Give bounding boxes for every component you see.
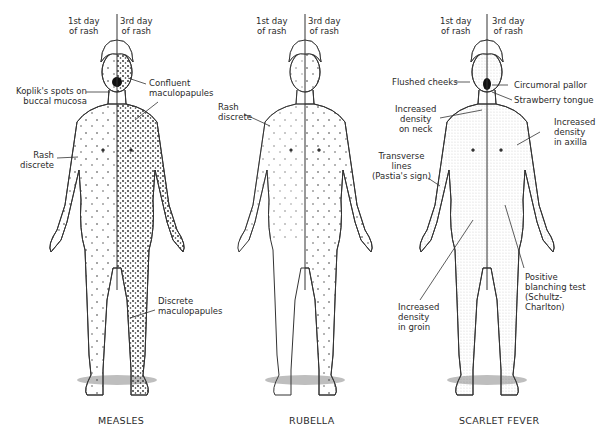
scarlet-day1-label: 1st day of rash bbox=[440, 16, 472, 36]
confluent-maculopapules-label: Confluent maculopapules bbox=[149, 78, 214, 98]
rubella-figure bbox=[238, 14, 372, 395]
rubella-caption: RUBELLA bbox=[289, 415, 334, 426]
scarlet-fever-caption: SCARLET FEVER bbox=[459, 415, 539, 426]
measles-day3-label: 3rd day of rash bbox=[120, 16, 153, 36]
rubella-day1-label: 1st day of rash bbox=[256, 16, 288, 36]
flushed-cheeks-label: Flushed cheeks bbox=[392, 77, 458, 87]
measles-figure bbox=[50, 14, 184, 395]
blanching-test-label: Positive blanching test (Schultz- Charlt… bbox=[525, 272, 586, 312]
axilla-density-label: Increased density in axilla bbox=[554, 117, 595, 147]
neck-density-label: Increased density on neck bbox=[395, 104, 436, 134]
strawberry-tongue-label: Strawberry tongue bbox=[514, 95, 594, 105]
measles-day1-label: 1st day of rash bbox=[68, 16, 100, 36]
figure-drawing bbox=[0, 0, 602, 440]
koplik-spots-label: Koplik's spots on buccal mucosa bbox=[16, 86, 87, 106]
pastia-sign-label: Transverse lines (Pastia's sign) bbox=[372, 151, 431, 181]
scarlet-day3-label: 3rd day of rash bbox=[492, 16, 525, 36]
discrete-maculopapules-label: Discrete maculopapules bbox=[158, 296, 223, 316]
groin-density-label: Increased density in groin bbox=[398, 302, 439, 332]
rubella-day3-label: 3rd day of rash bbox=[308, 16, 341, 36]
measles-rash-discrete-label: Rash discrete bbox=[20, 150, 54, 170]
measles-caption: MEASLES bbox=[98, 415, 144, 426]
rubella-rash-discrete-label: Rash discrete bbox=[218, 102, 252, 122]
circumoral-pallor-label: Circumoral pallor bbox=[514, 80, 587, 90]
scarlet-fever-figure bbox=[420, 14, 554, 395]
